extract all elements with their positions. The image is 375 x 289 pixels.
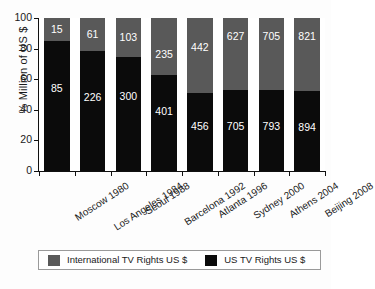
bar-segment-us[interactable]: 226	[80, 51, 106, 171]
legend-swatch-international-icon	[48, 255, 60, 266]
stacked-bar[interactable]: 61226	[80, 18, 106, 171]
stacked-bar[interactable]: 235401	[151, 18, 177, 171]
bar-segment-us[interactable]: 85	[44, 41, 70, 171]
bar-slot: 627705	[218, 18, 254, 171]
bar-segment-international[interactable]: 103	[116, 18, 142, 57]
bar-segment-us[interactable]: 705	[223, 90, 249, 171]
bar-slot: 821894	[289, 18, 325, 171]
bar-slot: 235401	[146, 18, 182, 171]
y-axis-tick-label: 0	[2, 164, 32, 176]
bar-slot: 61226	[75, 18, 111, 171]
y-axis-tick-label: 80	[2, 42, 32, 54]
bar-segment-us[interactable]: 456	[187, 93, 213, 171]
bar-segment-international[interactable]: 705	[259, 18, 285, 90]
bar-value-label: 103	[120, 32, 138, 43]
bar-segment-international[interactable]: 235	[151, 18, 177, 75]
bar-value-label: 401	[155, 106, 173, 117]
bar-slot: 442456	[182, 18, 218, 171]
stacked-bar[interactable]: 705793	[259, 18, 285, 171]
stacked-bar[interactable]: 103300	[116, 18, 142, 171]
bar-slot: 705793	[254, 18, 290, 171]
bar-value-label: 705	[263, 31, 281, 42]
stacked-bar[interactable]: 1585	[44, 18, 70, 171]
bar-segment-international[interactable]: 442	[187, 18, 213, 93]
bar-series-container: 1585612261033002354014424566277057057938…	[39, 18, 325, 171]
stacked-bar[interactable]: 442456	[187, 18, 213, 171]
bar-value-label: 442	[191, 42, 209, 53]
bar-segment-us[interactable]: 401	[151, 75, 177, 171]
stacked-bar[interactable]: 627705	[223, 18, 249, 171]
chart-legend: International TV Rights US $ US TV Right…	[38, 250, 321, 270]
bar-value-label: 821	[298, 31, 316, 42]
legend-label-us: US TV Rights US $	[224, 255, 305, 265]
bar-value-label: 894	[298, 122, 316, 133]
bar-segment-international[interactable]: 15	[44, 18, 70, 41]
plot-area: 020406080100 158561226103300235401442456…	[38, 18, 325, 172]
bar-value-label: 456	[191, 121, 209, 132]
bar-value-label: 235	[155, 49, 173, 60]
bar-segment-us[interactable]: 300	[116, 57, 142, 171]
bar-value-label: 627	[227, 31, 245, 42]
y-axis-tick-label: 40	[2, 103, 32, 115]
y-axis-tick-label: 100	[2, 11, 32, 23]
bar-value-label: 15	[51, 24, 63, 35]
bar-slot: 1585	[39, 18, 75, 171]
legend-swatch-us-icon	[205, 255, 217, 266]
bar-value-label: 226	[84, 92, 102, 103]
bar-segment-us[interactable]: 894	[294, 91, 320, 171]
y-axis-tick-label: 20	[2, 133, 32, 145]
bar-value-label: 793	[263, 121, 281, 132]
legend-item-us[interactable]: US TV Rights US $	[187, 251, 305, 269]
bar-value-label: 85	[51, 83, 63, 94]
bar-value-label: 300	[120, 91, 138, 102]
bar-value-label: 61	[87, 29, 99, 40]
x-axis-tick	[325, 171, 326, 176]
stacked-bar[interactable]: 821894	[294, 18, 320, 171]
bar-segment-us[interactable]: 793	[259, 90, 285, 171]
bar-segment-international[interactable]: 821	[294, 18, 320, 91]
legend-label-international: International TV Rights US $	[67, 255, 187, 265]
bar-segment-international[interactable]: 61	[80, 18, 106, 51]
bar-slot: 103300	[111, 18, 147, 171]
bar-segment-international[interactable]: 627	[223, 18, 249, 90]
x-axis-labels: Moscow 1980Los Angeles 1984Seoul 1988Bar…	[38, 176, 325, 236]
legend-item-international[interactable]: International TV Rights US $	[39, 251, 187, 269]
y-axis-tick-label: 60	[2, 72, 32, 84]
bar-value-label: 705	[227, 121, 245, 132]
